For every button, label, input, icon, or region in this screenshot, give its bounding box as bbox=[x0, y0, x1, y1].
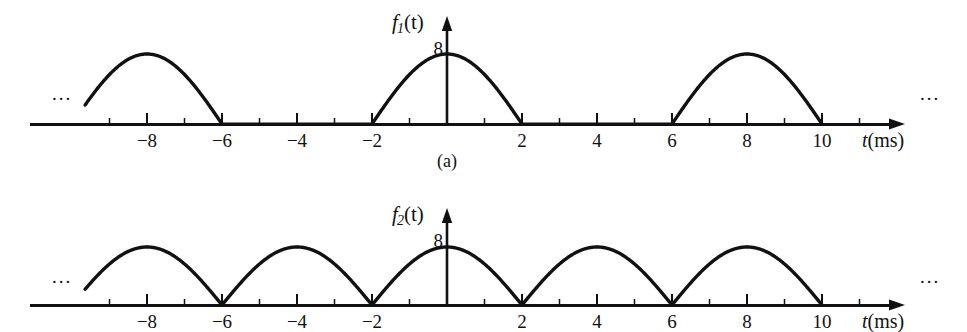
tick-label-6: 6 bbox=[667, 131, 677, 150]
tick-label-6: 6 bbox=[667, 312, 677, 331]
figure-rectified-sine-waveforms: f1(t) 8 ... ... t(ms) −8−6−4−2246810 (a)… bbox=[0, 0, 967, 332]
tick-label-8: 8 bbox=[742, 131, 752, 150]
tick-label-4: 4 bbox=[592, 131, 602, 150]
panel-b-function-subscript: 2 bbox=[397, 213, 404, 228]
panel-a-graphics bbox=[30, 16, 905, 130]
tick-label-neg2: −2 bbox=[362, 312, 382, 331]
panel-a-axis-unit: (ms) bbox=[868, 129, 905, 151]
panel-b-function-label: f2(t) bbox=[392, 204, 424, 228]
panel-a-axis-label: t(ms) bbox=[862, 130, 904, 150]
tick-label-neg6: −6 bbox=[212, 312, 232, 331]
tick-label-neg4: −4 bbox=[287, 131, 307, 150]
tick-label-neg8: −8 bbox=[137, 312, 157, 331]
panel-a-right-ellipsis: ... bbox=[920, 84, 940, 103]
panel-b-left-ellipsis: ... bbox=[52, 267, 72, 286]
panel-a-left-ellipsis: ... bbox=[52, 84, 72, 103]
tick-label-neg4: −4 bbox=[287, 312, 307, 331]
panel-b-graphics bbox=[30, 208, 905, 311]
panel-a-function-subscript: 1 bbox=[397, 21, 404, 36]
waveform-plot-svg bbox=[0, 0, 967, 332]
tick-label-neg6: −6 bbox=[212, 131, 232, 150]
tick-label-10: 10 bbox=[813, 312, 832, 331]
panel-b-right-ellipsis: ... bbox=[920, 267, 940, 286]
panel-a-amplitude-label: 8 bbox=[434, 39, 444, 58]
panel-b-function-arg: (t) bbox=[404, 202, 424, 226]
tick-label-neg8: −8 bbox=[137, 131, 157, 150]
panel-b-axis-unit: (ms) bbox=[868, 310, 905, 332]
panel-a-caption: (a) bbox=[437, 152, 457, 170]
panel-a-function-label: f1(t) bbox=[392, 12, 424, 36]
panel-b-axis-label: t(ms) bbox=[862, 311, 904, 331]
tick-label-4: 4 bbox=[592, 312, 602, 331]
tick-label-8: 8 bbox=[742, 312, 752, 331]
tick-label-2: 2 bbox=[517, 312, 527, 331]
tick-label-neg2: −2 bbox=[362, 131, 382, 150]
panel-a-function-arg: (t) bbox=[404, 10, 424, 34]
tick-label-10: 10 bbox=[813, 131, 832, 150]
tick-label-2: 2 bbox=[517, 131, 527, 150]
panel-b-amplitude-label: 8 bbox=[434, 231, 444, 250]
